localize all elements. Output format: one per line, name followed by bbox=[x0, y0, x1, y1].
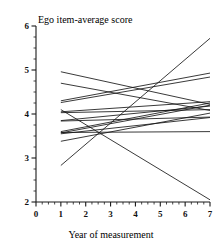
x-tick-label: 7 bbox=[208, 209, 213, 219]
x-tick-label: 4 bbox=[133, 209, 138, 219]
x-axis-title: Year of measurement bbox=[68, 229, 153, 240]
x-tick-label: 6 bbox=[183, 209, 188, 219]
x-tick-label: 3 bbox=[108, 209, 113, 219]
series-line bbox=[61, 72, 210, 105]
y-tick-label: 6 bbox=[25, 21, 30, 31]
y-tick-label: 3 bbox=[25, 153, 30, 163]
series-line bbox=[61, 105, 210, 133]
series-line bbox=[61, 77, 210, 103]
series-line bbox=[61, 106, 210, 121]
x-tick-label: 5 bbox=[158, 209, 163, 219]
y-tick-label: 2 bbox=[25, 197, 30, 207]
x-tick-label: 0 bbox=[34, 209, 39, 219]
x-axis-title-wrapper: Year of measurement bbox=[0, 224, 222, 242]
y-tick-label: 4 bbox=[25, 109, 30, 119]
x-tick-label: 2 bbox=[83, 209, 88, 219]
series-group bbox=[61, 38, 210, 199]
x-tick-label: 1 bbox=[59, 209, 64, 219]
chart-page: 2345601234567 Ego item-average score Yea… bbox=[0, 0, 222, 244]
page-title-wrapper: Ego item-average score bbox=[38, 9, 132, 27]
series-line bbox=[61, 110, 210, 200]
chart-title: Ego item-average score bbox=[38, 14, 132, 25]
spaghetti-plot: 2345601234567 bbox=[0, 0, 222, 244]
series-line bbox=[61, 38, 210, 165]
y-tick-label: 5 bbox=[25, 65, 30, 75]
axes-group bbox=[32, 26, 211, 207]
